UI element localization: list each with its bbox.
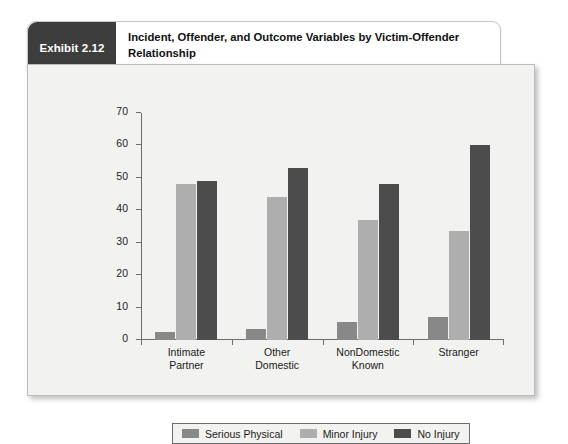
x-axis-label-line: Stranger: [413, 346, 504, 359]
y-tick: 10: [136, 307, 141, 308]
legend-swatch-icon: [182, 429, 199, 438]
x-tick: [323, 340, 324, 345]
legend-swatch-icon: [300, 429, 317, 438]
bar: [449, 231, 469, 340]
bar: [267, 197, 287, 340]
y-tick: 70: [136, 112, 141, 113]
x-axis-label-line: NonDomestic: [323, 346, 414, 359]
y-tick-label: 30: [116, 235, 128, 247]
bar: [379, 184, 399, 340]
exhibit-title: Incident, Offender, and Outcome Variable…: [128, 30, 494, 61]
x-tick: [503, 340, 504, 345]
bar: [337, 322, 357, 340]
y-tick: 40: [136, 209, 141, 210]
plot-area: 010203040506070 IntimatePartnerOtherDome…: [141, 113, 504, 340]
x-axis-label-line: Known: [323, 359, 414, 372]
bar: [176, 184, 196, 340]
chart-legend: Serious PhysicalMinor InjuryNo Injury: [172, 423, 470, 444]
x-axis-label-line: Partner: [141, 359, 232, 372]
bar: [197, 181, 217, 340]
y-tick-label: 20: [116, 267, 128, 279]
legend-label: Serious Physical: [205, 428, 283, 440]
x-tick: [141, 340, 142, 345]
y-tick-label: 50: [116, 170, 128, 182]
y-tick: 20: [136, 274, 141, 275]
legend-item[interactable]: Minor Injury: [300, 428, 378, 440]
x-axis-label-line: Intimate: [141, 346, 232, 359]
bar-group: [155, 113, 217, 340]
legend-label: No Injury: [417, 428, 459, 440]
x-tick: [413, 340, 414, 345]
bar: [428, 317, 448, 340]
y-tick-label: 70: [116, 105, 128, 117]
legend-item[interactable]: Serious Physical: [182, 428, 283, 440]
chart-panel: 010203040506070 IntimatePartnerOtherDome…: [27, 64, 535, 396]
bar: [288, 168, 308, 340]
x-axis-label-line: Domestic: [232, 359, 323, 372]
y-tick-label: 40: [116, 202, 128, 214]
x-tick: [232, 340, 233, 345]
bar: [155, 332, 175, 340]
y-tick: 30: [136, 242, 141, 243]
x-axis-label-line: Other: [232, 346, 323, 359]
y-tick: 60: [136, 144, 141, 145]
bar: [470, 145, 490, 340]
y-axis-line: [141, 113, 142, 340]
y-tick-label: 10: [116, 300, 128, 312]
legend-item[interactable]: No Injury: [394, 428, 459, 440]
bar-group: [337, 113, 399, 340]
bar-group: [428, 113, 490, 340]
legend-label: Minor Injury: [323, 428, 378, 440]
bar-group: [246, 113, 308, 340]
y-tick-label: 60: [116, 137, 128, 149]
y-tick-label: 0: [122, 332, 128, 344]
x-axis-label: NonDomesticKnown: [323, 346, 414, 372]
x-axis-label: OtherDomestic: [232, 346, 323, 372]
y-tick: 50: [136, 177, 141, 178]
bar: [358, 220, 378, 340]
legend-swatch-icon: [394, 429, 411, 438]
exhibit-number-label: Exhibit 2.12: [39, 42, 104, 54]
exhibit-card: Exhibit 2.12 Incident, Offender, and Out…: [27, 21, 535, 396]
x-axis-label: Stranger: [413, 346, 504, 359]
bar: [246, 329, 266, 340]
x-axis-label: IntimatePartner: [141, 346, 232, 372]
